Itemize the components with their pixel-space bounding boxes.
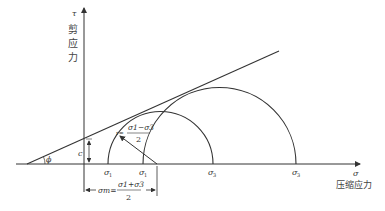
- mohr-coulomb-diagram: τ 剪 应 力 σ 压缩应力 σ 1 σ 1 σ 3 σ 3 c ϕ r= σ1…: [0, 0, 385, 211]
- label-sigma1-small: σ 1: [104, 168, 112, 178]
- svg-text:3: 3: [297, 172, 300, 178]
- label-sigma3-large: σ 3: [292, 168, 300, 178]
- failure-envelope-line: [27, 51, 279, 164]
- label-sigma1-large: σ 1: [139, 168, 147, 178]
- svg-text:1: 1: [109, 172, 112, 178]
- sigma-axis-label: 压缩应力: [336, 179, 372, 190]
- tau-symbol: τ: [72, 9, 77, 18]
- radius-numerator: σ1−σ3: [128, 123, 154, 132]
- tau-label-char-2: 应: [68, 37, 78, 49]
- mean-stress-numerator: σ1+σ3: [118, 180, 144, 189]
- small-mohr-circle: [108, 112, 213, 165]
- label-sigma3-small: σ 3: [208, 168, 216, 178]
- svg-text:1: 1: [144, 172, 147, 178]
- mean-stress-denominator: 2: [126, 193, 131, 202]
- sigma-symbol: σ: [353, 169, 359, 178]
- cohesion-label: c: [78, 149, 83, 158]
- radius-denominator: 2: [136, 135, 141, 144]
- svg-text:3: 3: [213, 172, 216, 178]
- radius-prefix: r=: [116, 129, 124, 136]
- friction-angle-arc: [44, 157, 46, 164]
- tau-label-char-1: 剪: [68, 23, 78, 35]
- large-mohr-circle: [143, 88, 296, 164]
- friction-angle-label: ϕ: [46, 155, 52, 164]
- tau-label-char-3: 力: [68, 51, 78, 63]
- mean-stress-lhs: σm=: [98, 186, 117, 195]
